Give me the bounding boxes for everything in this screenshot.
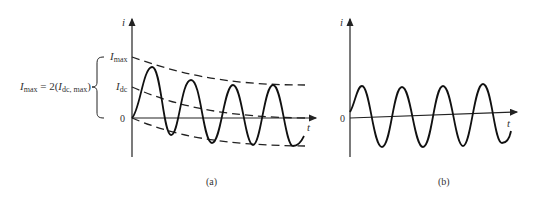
a-origin-label: 0 <box>120 113 125 124</box>
b-x-axis-label: t <box>507 117 511 129</box>
figure: i t 0 Imax Idc Imax = 2(Idc, max) (a) i … <box>0 0 536 198</box>
a-y-axis-label: i <box>122 16 125 28</box>
b-origin-label: 0 <box>340 113 345 124</box>
a-idc-label: Idc <box>115 80 128 94</box>
a-caption: (a) <box>206 176 217 188</box>
a-current-waveform <box>132 67 304 146</box>
figure-svg: i t 0 Imax Idc Imax = 2(Idc, max) (a) i … <box>0 0 536 198</box>
panel-a: i t 0 Imax Idc Imax = 2(Idc, max) (a) <box>19 16 316 188</box>
a-equation: Imax = 2(Idc, max) <box>19 80 91 94</box>
a-brace <box>92 57 104 118</box>
panel-b: i t 0 (b) <box>340 16 517 188</box>
a-x-axis-label: t <box>307 121 311 133</box>
a-imax-label: Imax <box>109 50 127 64</box>
b-caption: (b) <box>438 176 450 188</box>
a-dc-component <box>132 87 305 118</box>
b-y-axis-label: i <box>340 16 343 28</box>
